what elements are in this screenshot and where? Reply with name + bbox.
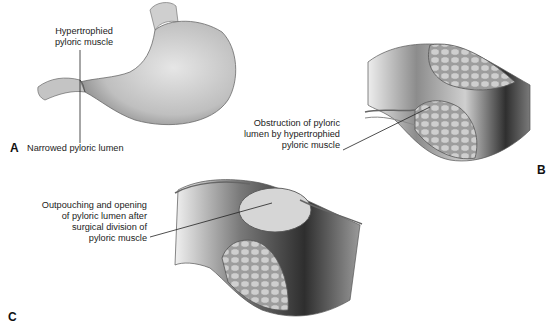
panel-b-label: Obstruction of pyloric lumen by hypertro… (226, 118, 340, 151)
panel-c-label-line: surgical division of (20, 222, 147, 233)
panel-b-letter: B (537, 163, 546, 177)
panel-a-bottom-label: Narrowed pyloric lumen (27, 143, 124, 154)
panel-a-top-label-line: pyloric muscle (42, 37, 126, 48)
panel-b-label-line: lumen by hypertrophied (226, 129, 340, 140)
illustration-canvas (0, 0, 553, 328)
panel-b-label-line: pyloric muscle (226, 140, 340, 151)
panel-c-letter: C (8, 310, 17, 324)
panel-a-top-label: Hypertrophied pyloric muscle (42, 26, 126, 48)
panel-c-label-line: pyloric muscle (20, 233, 147, 244)
panel-c-label: Outpouching and opening of pyloric lumen… (20, 200, 147, 244)
panel-a-letter: A (10, 141, 19, 155)
panel-c-label-line: of pyloric lumen after (20, 211, 147, 222)
panel-a-stomach (38, 3, 236, 143)
panel-b-label-line: Obstruction of pyloric (226, 118, 340, 129)
panel-b-obstruction (343, 44, 530, 161)
panel-a-top-label-line: Hypertrophied (42, 26, 126, 37)
panel-c-pyloromyotomy (150, 180, 362, 316)
panel-c-label-line: Outpouching and opening (20, 200, 147, 211)
